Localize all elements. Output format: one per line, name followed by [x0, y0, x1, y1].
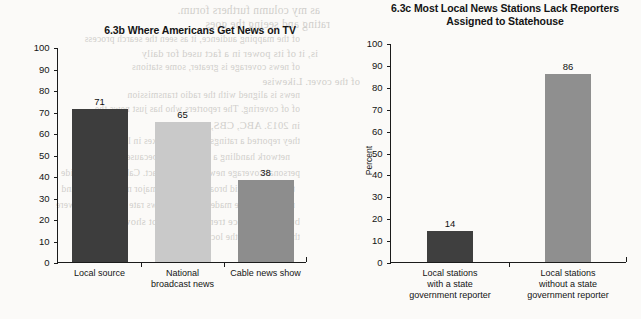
x-axis-category-label: Local source: [58, 268, 142, 279]
x-axis-end-cap: [306, 257, 307, 262]
y-axis-tick: 10: [387, 241, 392, 242]
category-label-line: Local stations: [395, 268, 505, 279]
category-label-line: government reporter: [513, 290, 623, 301]
y-axis-tick: 30: [387, 197, 392, 198]
figure-6-3c: 6.3c Most Local News Stations Lack Repor…: [358, 0, 641, 319]
y-axis-tick-label: 100: [34, 42, 50, 53]
bar: 14: [427, 231, 473, 262]
y-axis-tick-label: 50: [372, 148, 383, 159]
chart-title-line-2: Assigned to Statehouse: [380, 15, 630, 28]
y-axis-tick: 100: [387, 44, 392, 45]
y-axis-tick-label: 10: [39, 236, 50, 247]
y-axis-tick-label: 20: [39, 214, 50, 225]
category-label-line: government reporter: [395, 290, 505, 301]
y-axis-tick-label: 100: [367, 38, 383, 49]
bar: 86: [545, 74, 591, 262]
y-axis-tick: 70: [54, 113, 59, 114]
y-axis-tick: 10: [54, 242, 59, 243]
x-axis-tick: [509, 262, 510, 267]
chart-title-line-1: 6.3c Most Local News Stations Lack Repor…: [380, 2, 630, 15]
x-axis-category-label: Local stationswithout a stategovernment …: [513, 268, 623, 301]
plot-area-6-3c: 010203040506070809010014Local stationswi…: [390, 44, 626, 263]
y-axis-tick: 60: [387, 132, 392, 133]
chart-title-6-3b: 6.3b Where Americans Get News on TV: [60, 24, 340, 37]
y-axis-tick: 20: [387, 219, 392, 220]
y-axis-tick: 30: [54, 199, 59, 200]
y-axis-tick-label: 70: [372, 104, 383, 115]
x-axis-category-label: Local stationswith a stategovernment rep…: [395, 268, 505, 301]
chart-title-6-3c: 6.3c Most Local News Stations Lack Repor…: [380, 2, 630, 28]
bar: 38: [238, 180, 294, 262]
bar-value-label: 86: [563, 61, 574, 72]
y-axis-tick: 80: [54, 91, 59, 92]
x-axis-tick: [141, 262, 142, 267]
y-axis-tick: 0: [54, 263, 59, 264]
category-label-line: National: [141, 268, 225, 279]
y-axis-tick-label: 70: [39, 107, 50, 118]
plot-area-6-3b: 010203040506070809010071Local source65Na…: [57, 48, 306, 263]
y-axis-tick: 50: [387, 154, 392, 155]
y-axis-tick-label: 0: [377, 257, 382, 268]
y-axis-tick-label: 60: [39, 128, 50, 139]
bar-value-label: 38: [260, 167, 271, 178]
y-axis-tick-label: 50: [39, 150, 50, 161]
category-label-line: with a state: [395, 279, 505, 290]
y-axis-tick-label: 60: [372, 126, 383, 137]
category-label-line: broadcast news: [141, 279, 225, 290]
category-label-line: Local source: [58, 268, 142, 279]
x-axis-end-cap: [626, 257, 627, 262]
y-axis-tick-label: 10: [372, 235, 383, 246]
x-axis-category-label: Nationalbroadcast news: [141, 268, 225, 290]
y-axis-tick: 60: [54, 134, 59, 135]
y-axis-tick: 40: [54, 177, 59, 178]
bar-value-label: 14: [445, 218, 456, 229]
y-axis-tick-label: 40: [39, 171, 50, 182]
y-axis-tick-label: 80: [372, 82, 383, 93]
y-axis-tick: 90: [387, 66, 392, 67]
y-axis-tick: 0: [387, 263, 392, 264]
category-label-line: Local stations: [513, 268, 623, 279]
y-axis-tick-label: 90: [39, 64, 50, 75]
y-axis-tick-label: 40: [372, 169, 383, 180]
y-axis-tick: 40: [387, 175, 392, 176]
y-axis-tick: 50: [54, 156, 59, 157]
x-axis-category-label: Cable news show: [224, 268, 308, 279]
y-axis-tick-label: 80: [39, 85, 50, 96]
bar-value-label: 71: [94, 96, 105, 107]
y-axis-tick-label: 20: [372, 213, 383, 224]
x-axis-tick: [224, 262, 225, 267]
bar-value-label: 65: [177, 109, 188, 120]
y-axis-tick-label: 30: [39, 193, 50, 204]
y-axis-tick-label: 0: [44, 257, 49, 268]
y-axis-tick: 100: [54, 48, 59, 49]
bar: 65: [155, 122, 211, 262]
y-axis-tick-label: 90: [372, 60, 383, 71]
y-axis-tick: 80: [387, 88, 392, 89]
y-axis-tick: 90: [54, 70, 59, 71]
bar: 71: [72, 109, 128, 262]
y-axis-tick-label: 30: [372, 191, 383, 202]
category-label-line: Cable news show: [224, 268, 308, 279]
figure-6-3b: 6.3b Where Americans Get News on TV 0102…: [0, 0, 360, 319]
category-label-line: without a state: [513, 279, 623, 290]
y-axis-tick: 70: [387, 110, 392, 111]
y-axis-tick: 20: [54, 220, 59, 221]
